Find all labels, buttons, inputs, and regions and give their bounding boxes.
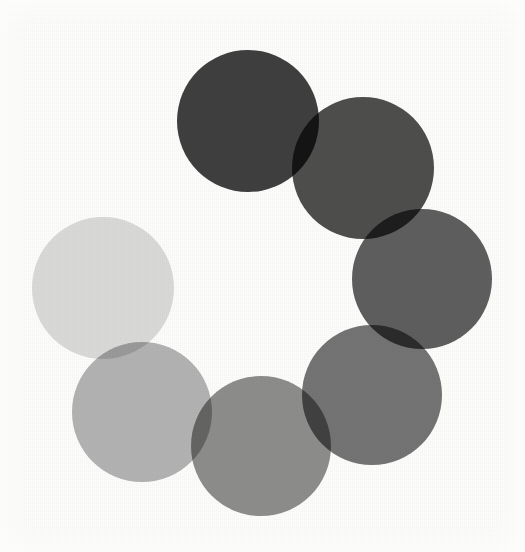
circle-5[interactable]: [191, 376, 331, 516]
circle-6[interactable]: [72, 342, 212, 482]
circle-7[interactable]: [32, 217, 174, 359]
circle-ring-diagram: [0, 0, 525, 552]
figure-canvas: [0, 0, 525, 552]
